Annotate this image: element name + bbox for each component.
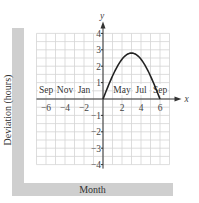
y-tick-label: −4 xyxy=(91,160,101,170)
y-tick-label: −3 xyxy=(91,144,101,154)
y-axis-arrow-icon xyxy=(101,21,106,28)
y-tick-label: 1 xyxy=(96,78,101,88)
y-tick-label: −1 xyxy=(91,111,101,121)
x-axis-arrow-icon xyxy=(175,97,182,102)
x-tick-label: −4 xyxy=(60,103,70,113)
month-label: Sep xyxy=(39,85,54,95)
y-tick-label: 4 xyxy=(96,29,101,39)
x-tick-label: −2 xyxy=(79,103,89,113)
month-label: Jul xyxy=(135,85,146,95)
y-tick-label: 3 xyxy=(96,45,101,55)
x-tick-label: 4 xyxy=(139,103,144,113)
y-tick-label: −2 xyxy=(91,127,101,137)
x-tick-label: 6 xyxy=(158,103,163,113)
chart-plot: xy−6−4−2246−4−3−2−11234SepNovJanMayJulSe… xyxy=(0,0,199,203)
y-tick-label: 2 xyxy=(96,62,101,72)
month-label: May xyxy=(113,85,131,95)
y-axis-name: y xyxy=(99,11,105,21)
month-label: Nov xyxy=(57,85,74,95)
x-axis-name: x xyxy=(184,94,190,104)
month-label: Jan xyxy=(78,85,91,95)
x-tick-label: 2 xyxy=(120,103,125,113)
x-tick-label: −6 xyxy=(41,103,51,113)
